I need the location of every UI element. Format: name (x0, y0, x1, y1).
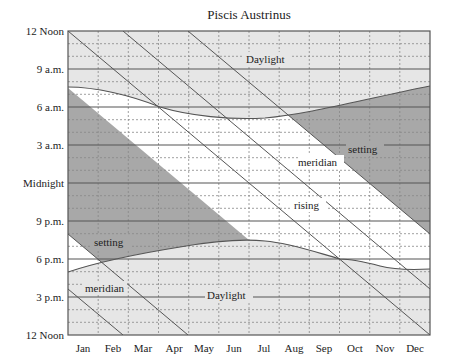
setting-label-top: setting (348, 143, 378, 155)
x-tick-label: Feb (105, 342, 122, 354)
x-tick-label: Jun (226, 342, 242, 354)
daylight-label-top: Daylight (246, 53, 285, 65)
y-tick-label: Midnight (23, 177, 64, 189)
x-tick-label: Jan (76, 342, 91, 354)
y-axis: 12 Noon 9 a.m. 6 a.m. 3 a.m. Midnight 9 … (23, 25, 64, 341)
y-tick-label: 9 p.m. (36, 215, 64, 227)
setting-label-bottom: setting (94, 236, 124, 248)
y-tick-label: 6 a.m. (37, 101, 64, 113)
x-tick-label: May (194, 342, 215, 354)
y-tick-label: 6 p.m. (36, 253, 64, 265)
x-tick-label: Mar (134, 342, 153, 354)
y-tick-label: 3 a.m. (37, 139, 64, 151)
x-tick-label: Sep (316, 342, 333, 354)
y-tick-label: 12 Noon (26, 329, 65, 341)
meridian-label-bottom: meridian (85, 282, 125, 294)
x-tick-label: Oct (347, 342, 363, 354)
y-tick-label: 3 p.m. (36, 291, 64, 303)
x-tick-label: Jul (258, 342, 271, 354)
x-tick-label: Dec (406, 342, 424, 354)
chart-title: Piscis Austrinus (207, 7, 290, 22)
y-tick-label: 12 Noon (26, 25, 65, 37)
rising-label: rising (294, 199, 320, 211)
x-tick-label: Nov (376, 342, 395, 354)
visibility-chart: Piscis Austrinus (0, 0, 449, 364)
daylight-label-bottom: Daylight (207, 289, 246, 301)
y-tick-label: 9 a.m. (37, 63, 64, 75)
meridian-label-top: meridian (298, 156, 338, 168)
x-tick-label: Aug (285, 342, 304, 354)
x-axis: Jan Feb Mar Apr May Jun Jul Aug Sep Oct … (76, 342, 424, 354)
x-tick-label: Apr (165, 342, 182, 354)
